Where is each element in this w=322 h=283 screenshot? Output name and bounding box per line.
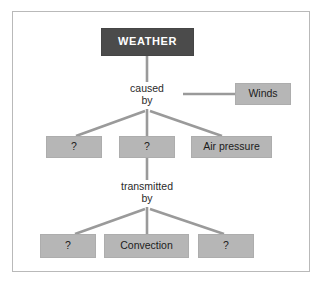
- label-caused-by-line2: by: [141, 95, 152, 107]
- node-transmit-3-unknown[interactable]: ?: [198, 234, 254, 258]
- node-cause-1-unknown[interactable]: ?: [46, 136, 102, 158]
- label-transmitted-by: transmitted by: [107, 180, 187, 206]
- node-air-pressure-label: Air pressure: [203, 141, 260, 152]
- edge-caused-by-to-cause-3: [150, 111, 222, 136]
- label-caused-by: caused by: [112, 82, 182, 108]
- node-convection-label: Convection: [120, 240, 173, 251]
- node-cause-1-label: ?: [71, 141, 77, 152]
- node-weather-label: WEATHER: [118, 36, 177, 48]
- node-air-pressure[interactable]: Air pressure: [191, 136, 272, 158]
- weather-concept-diagram: WEATHER caused by Winds ? ? Air pressure…: [0, 0, 322, 283]
- node-winds[interactable]: Winds: [235, 83, 291, 105]
- node-weather[interactable]: WEATHER: [101, 28, 194, 56]
- node-cause-2-label: ?: [144, 141, 150, 152]
- node-transmit-1-label: ?: [65, 240, 71, 251]
- node-cause-2-unknown[interactable]: ?: [119, 136, 175, 158]
- screenshot-root: WEATHER caused by Winds ? ? Air pressure…: [0, 0, 322, 283]
- node-convection[interactable]: Convection: [104, 234, 189, 258]
- node-winds-label: Winds: [248, 88, 277, 99]
- edge-transmitted-by-to-transmit-1: [75, 209, 145, 234]
- node-transmit-1-unknown[interactable]: ?: [40, 234, 96, 258]
- label-transmitted-by-line2: by: [141, 193, 152, 205]
- edge-caused-by-to-cause-1: [76, 111, 145, 136]
- edge-transmitted-by-to-transmit-3: [150, 209, 224, 234]
- node-transmit-3-label: ?: [223, 240, 229, 251]
